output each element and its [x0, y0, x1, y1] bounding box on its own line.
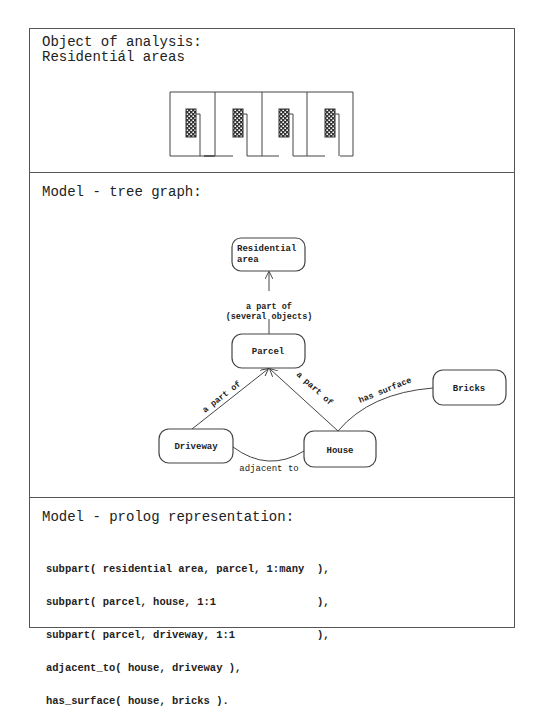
edge-driveway-parcel [192, 369, 268, 429]
prolog-section: Model - prolog representation: subpart( … [30, 498, 514, 629]
prolog-line-4: adjacent_to( house, driveway ), [46, 663, 330, 674]
house-shape-2 [233, 109, 243, 137]
edge-label-adjacent-to: adjacent to [239, 464, 298, 474]
edge-label-part-of-several-1: a part of [246, 302, 292, 312]
edge-label-part-of-several-2: (several objects) [226, 312, 313, 322]
house-shape-4 [325, 109, 335, 137]
prolog-line-2: subpart( parcel, house, 1:1 ), [46, 597, 330, 608]
object-of-analysis-section: Object of analysis: Residentiál areas [30, 29, 514, 173]
house-shape-3 [279, 109, 289, 137]
node-residential-area-label-2: area [237, 255, 259, 265]
prolog-code: subpart( residential area, parcel, 1:man… [46, 542, 330, 710]
edge-label-has-surface: has surface [357, 375, 413, 405]
edge-driveway-house [233, 447, 304, 461]
parcel-shape-2 [204, 92, 262, 156]
prolog-heading: Model - prolog representation: [42, 510, 294, 525]
house-shape-1 [186, 109, 196, 137]
diagram-frame: Object of analysis: Residentiál areas [29, 28, 515, 628]
edge-label-house-part-of: a part of [294, 370, 335, 408]
tree-graph-section: Model - tree graph: [30, 173, 514, 498]
parcel-shape-4 [307, 92, 353, 156]
prolog-line-3: subpart( parcel, driveway, 1:1 ), [46, 630, 330, 641]
prolog-line-1: subpart( residential area, parcel, 1:man… [46, 564, 330, 575]
parcel-shape-1 [170, 92, 215, 156]
prolog-line-5: has_surface( house, bricks ). [46, 696, 330, 707]
node-residential-area-label-1: Residential [237, 244, 297, 254]
parcel-shape-3 [262, 92, 307, 156]
node-parcel-label: Parcel [252, 347, 285, 357]
node-driveway-label: Driveway [174, 442, 218, 452]
residential-area-illustration [30, 29, 516, 173]
node-bricks-label: Bricks [453, 384, 485, 394]
tree-graph: Residential area Parcel Driveway House B… [30, 173, 516, 498]
edge-label-driveway-part-of: a part of [201, 379, 243, 415]
node-house-label: House [326, 446, 353, 456]
